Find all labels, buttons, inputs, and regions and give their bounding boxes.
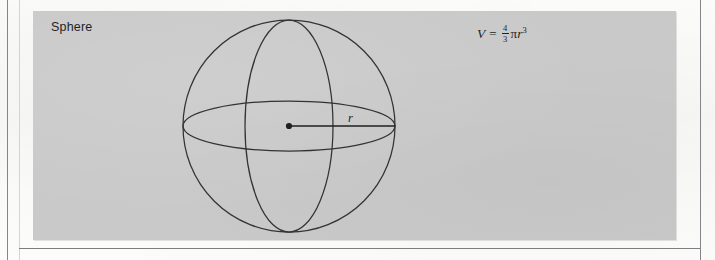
page-rule-left: [7, 0, 8, 260]
sphere-diagram: [33, 11, 676, 240]
page-rule-left-inner: [19, 0, 20, 260]
page-rule-bottom: [19, 248, 700, 249]
textbook-page: Sphere V = 4 3 π r 3 r: [0, 0, 715, 260]
page-rule-right: [700, 0, 701, 260]
sphere-center-dot: [286, 123, 292, 129]
radius-label: r: [348, 112, 353, 125]
figure-panel: Sphere V = 4 3 π r 3 r: [33, 11, 676, 240]
